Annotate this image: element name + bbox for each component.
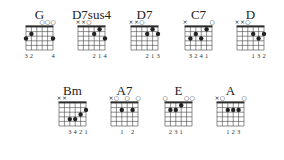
finger-number: 2 [232, 128, 235, 135]
finger-dot [68, 117, 72, 121]
fretboard-grid: ○○○324 [16, 4, 63, 64]
fretboard-grid: ××○132 [227, 4, 274, 64]
chord-d: D××○132 [227, 4, 274, 68]
fretboard-grid: ○○○231 [155, 80, 202, 140]
finger-number: 3 [237, 128, 240, 135]
finger-number: 1 [120, 128, 123, 135]
open-string-icon: ○ [241, 94, 246, 101]
finger-number: 4 [103, 52, 107, 59]
finger-number: 1 [226, 128, 229, 135]
finger-number: 2 [146, 52, 149, 59]
chord-g: G○○○324 [16, 4, 63, 68]
chord-c7: C7×○3241 [175, 4, 222, 68]
finger-number: 3 [68, 128, 71, 135]
fretboard-grid: ××○213 [121, 4, 168, 64]
finger-number: 2 [194, 52, 197, 59]
muted-string-icon: × [75, 18, 80, 25]
finger-dot [262, 32, 266, 36]
finger-number: 3 [257, 52, 260, 59]
finger-dot [29, 32, 33, 36]
finger-dot [145, 32, 149, 36]
chord-d7sus4: D7sus4××○214 [68, 4, 115, 68]
fretboard-grid: ×○○○12 [101, 80, 148, 140]
fretboard-grid: ×○○123 [207, 80, 254, 140]
finger-number: 4 [51, 52, 55, 59]
muted-string-icon: × [134, 18, 139, 25]
open-string-icon: ○ [162, 94, 167, 101]
finger-dot [51, 36, 55, 40]
finger-number: 3 [189, 52, 192, 59]
finger-number: 4 [200, 52, 204, 59]
open-string-icon: ○ [245, 18, 250, 25]
finger-dot [24, 36, 28, 40]
finger-number: 1 [151, 52, 154, 59]
finger-dot [231, 108, 235, 112]
open-string-icon: ○ [209, 18, 214, 25]
finger-dot [251, 32, 255, 36]
finger-number: 3 [174, 128, 177, 135]
fretboard-grid: ×○3241 [175, 4, 222, 64]
finger-dot [156, 32, 160, 36]
fretboard-grid: ××3421 [49, 80, 96, 140]
finger-dot [179, 103, 183, 107]
finger-dot [84, 108, 88, 112]
finger-dot [103, 36, 107, 40]
finger-dot [256, 36, 260, 40]
open-string-icon: ○ [50, 18, 55, 25]
chord-a: A×○○123 [207, 80, 254, 144]
chord-e: E○○○231 [155, 80, 202, 144]
finger-number: 2 [30, 52, 33, 59]
chord-bm: Bm××3421 [49, 80, 96, 144]
finger-dot [174, 108, 178, 112]
finger-number: 3 [24, 52, 27, 59]
muted-string-icon: × [128, 18, 133, 25]
finger-dot [236, 108, 240, 112]
finger-dot [92, 32, 96, 36]
fretboard-grid: ××○214 [68, 4, 115, 64]
finger-dot [194, 32, 198, 36]
muted-string-icon: × [56, 94, 61, 101]
open-string-icon: ○ [189, 94, 194, 101]
muted-string-icon: × [214, 94, 219, 101]
finger-dot [199, 36, 203, 40]
finger-number: 1 [84, 128, 87, 135]
open-string-icon: ○ [86, 18, 91, 25]
finger-number: 1 [180, 128, 183, 135]
finger-number: 1 [98, 52, 101, 59]
chord-d7: D7××○213 [121, 4, 168, 68]
muted-string-icon: × [108, 94, 113, 101]
finger-dot [188, 36, 192, 40]
finger-dot [130, 108, 134, 112]
finger-dot [226, 108, 230, 112]
finger-dot [204, 27, 208, 31]
muted-string-icon: × [62, 94, 67, 101]
finger-number: 4 [74, 128, 78, 135]
finger-number: 2 [79, 128, 82, 135]
open-string-icon: ○ [114, 94, 119, 101]
finger-dot [73, 117, 77, 121]
finger-number: 1 [205, 52, 208, 59]
finger-number: 2 [93, 52, 96, 59]
chord-a7: A7×○○○12 [101, 80, 148, 144]
finger-dot [78, 112, 82, 116]
finger-number: 2 [262, 52, 265, 59]
muted-string-icon: × [234, 18, 239, 25]
muted-string-icon: × [182, 18, 187, 25]
muted-string-icon: × [81, 18, 86, 25]
open-string-icon: ○ [220, 94, 225, 101]
finger-number: 1 [252, 52, 255, 59]
finger-dot [120, 108, 124, 112]
finger-number: 2 [169, 128, 172, 135]
finger-dot [168, 108, 172, 112]
open-string-icon: ○ [135, 94, 140, 101]
finger-dot [97, 27, 101, 31]
finger-number: 2 [131, 128, 134, 135]
open-string-icon: ○ [125, 94, 130, 101]
finger-number: 3 [156, 52, 159, 59]
muted-string-icon: × [240, 18, 245, 25]
finger-dot [150, 27, 154, 31]
open-string-icon: ○ [139, 18, 144, 25]
